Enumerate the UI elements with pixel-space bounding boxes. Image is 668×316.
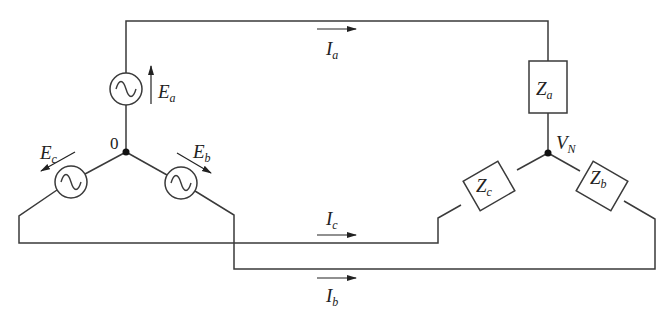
wire-phase-b [195, 191, 655, 269]
wire-neutral-eb [126, 152, 167, 175]
label-eb: Eb [192, 141, 211, 165]
wire-phase-c [19, 190, 461, 243]
label-ea: Ea [157, 81, 176, 105]
source-ea [110, 73, 142, 105]
load-neutral-node [545, 150, 552, 157]
load-za: Za [529, 61, 567, 113]
wire-neutral-ec [85, 152, 126, 174]
load-zb: Zb [576, 160, 629, 211]
label-ec: Ec [39, 142, 58, 166]
load-zc: Zc [463, 161, 515, 210]
source-eb [165, 167, 197, 199]
label-node-0: 0 [110, 134, 119, 153]
three-phase-circuit-diagram: Za Zc Zb Ea Ec Eb 0 VN Ia Ic Ib [0, 0, 668, 316]
label-ic: Ic [325, 208, 338, 232]
wire-vn-zc [517, 153, 548, 170]
source-neutral-node [123, 149, 130, 156]
label-vn: VN [556, 132, 577, 156]
label-ia: Ia [325, 38, 338, 62]
label-ib: Ib [325, 285, 338, 309]
source-ec [55, 166, 87, 198]
